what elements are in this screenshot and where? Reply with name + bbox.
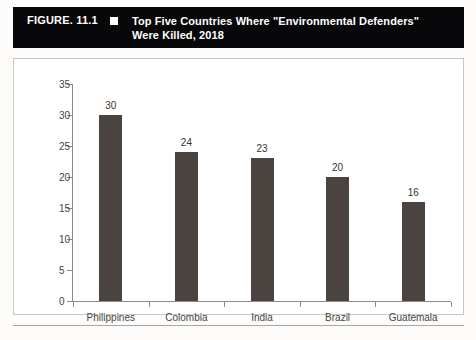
bar-brazil bbox=[326, 177, 349, 301]
y-axis-tick bbox=[67, 270, 72, 271]
page-bottom-rule bbox=[13, 325, 464, 326]
bar-india bbox=[251, 158, 274, 301]
bar-value-label: 20 bbox=[332, 162, 343, 173]
bar-philippines bbox=[99, 115, 122, 301]
category-label-colombia: Colombia bbox=[165, 312, 207, 323]
x-axis-tick bbox=[224, 302, 225, 307]
y-axis-tick bbox=[67, 301, 72, 302]
square-bullet-icon bbox=[110, 17, 118, 25]
x-axis-tick bbox=[73, 302, 74, 307]
x-axis-tick bbox=[149, 302, 150, 307]
y-axis-line bbox=[72, 84, 73, 302]
bar-value-label: 24 bbox=[181, 137, 192, 148]
figure-number-label: FIGURE. 11.1 bbox=[27, 14, 98, 27]
category-label-guatemala: Guatemala bbox=[389, 312, 438, 323]
bar-chart-plot-area: 05101520253035 3024232016 PhilippinesCol… bbox=[73, 84, 451, 301]
x-axis-tick bbox=[300, 302, 301, 307]
bar-colombia bbox=[175, 152, 198, 301]
x-axis-tick bbox=[451, 302, 452, 307]
category-label-brazil: Brazil bbox=[325, 312, 350, 323]
figure-header-bar: FIGURE. 11.1 Top Five Countries Where "E… bbox=[13, 7, 464, 48]
category-label-philippines: Philippines bbox=[87, 312, 135, 323]
scanned-page: FIGURE. 11.1 Top Five Countries Where "E… bbox=[0, 0, 476, 340]
figure-title-line-1: Top Five Countries Where "Environmental … bbox=[132, 15, 419, 27]
figure-title-line-2: Were Killed, 2018 bbox=[132, 28, 456, 42]
bar-guatemala bbox=[402, 202, 425, 301]
figure-title: Top Five Countries Where "Environmental … bbox=[132, 14, 456, 42]
bar-value-label: 16 bbox=[408, 187, 419, 198]
chart-frame: 05101520253035 3024232016 PhilippinesCol… bbox=[13, 58, 464, 315]
x-axis-tick bbox=[375, 302, 376, 307]
x-axis-line bbox=[72, 301, 451, 302]
category-label-india: India bbox=[251, 312, 273, 323]
bar-value-label: 30 bbox=[105, 100, 116, 111]
bar-value-label: 23 bbox=[256, 143, 267, 154]
